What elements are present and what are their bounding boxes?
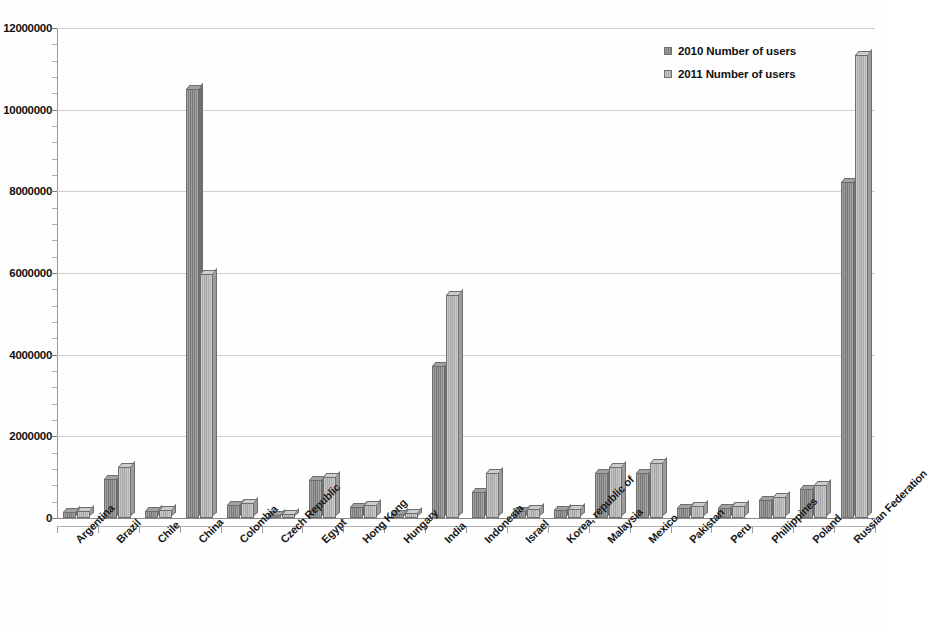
bar-face [405,513,418,518]
bar-group [671,28,712,518]
x-axis-labels: ArgentinaBrazilChileChinaColombiaCzech R… [57,527,875,627]
bar-2010 [841,182,854,518]
bar-group [793,28,834,518]
bar-group [384,28,425,518]
bar-face [568,509,581,518]
bar-2011 [241,503,254,518]
bar-face [241,503,254,518]
bar-group [630,28,671,518]
bar-face [472,492,485,518]
bar-face [650,463,663,518]
bar-2011 [118,467,131,518]
bar-face [446,295,459,518]
bar-2010 [554,510,567,518]
bar-face [227,505,240,518]
bar-face [432,366,445,518]
y-tick-label: 10000000 [0,104,52,116]
bar-group [548,28,589,518]
legend-swatch-icon [664,70,672,78]
bar-2011 [691,506,704,518]
bar-2011 [446,295,459,518]
y-tick-label: 0 [0,512,52,524]
bar-group [752,28,793,518]
y-tick-label: 8000000 [0,185,52,197]
bar-face [855,55,868,518]
plot-area [57,28,875,518]
bar-face [773,497,786,518]
bar-2011 [732,506,745,518]
bar-face [677,508,690,518]
bar-2011 [527,509,540,518]
bar-side [213,268,217,515]
bar-group [139,28,180,518]
bar-side [663,457,667,516]
bar-2011 [405,513,418,518]
bar-2011 [773,497,786,518]
bar-group [98,28,139,518]
bar-group [180,28,221,518]
bar-face [186,89,199,518]
bar-group [466,28,507,518]
bar-2010 [63,512,76,518]
bar-2011 [855,55,868,518]
y-tick-label: 12000000 [0,22,52,34]
y-major-tick [50,273,57,274]
bar-group [57,28,98,518]
bar-group [262,28,303,518]
y-tick-label: 6000000 [0,267,52,279]
bar-face [63,512,76,518]
bar-group [507,28,548,518]
bar-face [118,467,131,518]
x-tick [57,527,58,533]
legend-label: 2011 Number of users [678,68,796,80]
bar-face [364,505,377,518]
y-tick-label: 4000000 [0,349,52,361]
legend-label: 2010 Number of users [678,45,796,57]
bar-face [527,509,540,518]
bar-group [589,28,630,518]
bar-face [77,511,90,518]
bar-2010 [350,507,363,518]
bar-2011 [486,473,499,518]
bar-2011 [200,274,213,518]
y-major-tick [50,28,57,29]
bar-2010 [677,508,690,518]
y-major-tick [50,110,57,111]
bar-face [554,510,567,518]
bar-group [302,28,343,518]
y-major-tick [50,355,57,356]
bar-side [499,467,503,516]
legend-swatch-icon [664,47,672,55]
bar-2010 [432,366,445,518]
bar-group [221,28,262,518]
bar-top [364,501,381,505]
bar-side [459,290,463,516]
y-tick-label: 2000000 [0,430,52,442]
bar-face [691,506,704,518]
bar-side [131,462,135,516]
bar-2011 [77,511,90,518]
bar-2010 [227,505,240,518]
bar-group [343,28,384,518]
y-major-tick [50,191,57,192]
bar-2010 [145,511,158,518]
gridline [57,518,875,519]
bar-side [868,49,872,516]
y-major-tick [50,518,57,519]
chart-legend: 2010 Number of users2011 Number of users [664,44,864,90]
bar-face [759,500,772,518]
legend-item: 2010 Number of users [664,44,864,58]
bar-2011 [364,505,377,518]
bar-2011 [159,510,172,518]
legend-item: 2011 Number of users [664,67,864,81]
bar-face [841,182,854,518]
bar-2010 [472,492,485,518]
bar-face [350,507,363,518]
bar-2010 [759,500,772,518]
bar-face [282,514,295,518]
bar-2011 [282,514,295,518]
bar-face [145,511,158,518]
bar-group [711,28,752,518]
bar-face [732,506,745,518]
